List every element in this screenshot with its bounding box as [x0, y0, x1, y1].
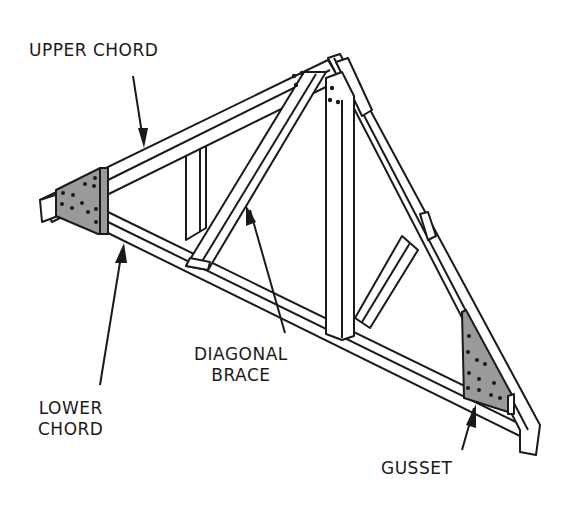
upper-chord-label: UPPER CHORD [29, 40, 158, 61]
truss-diagram: UPPER CHORD DIAGONAL BRACE LOWER CHORD G… [0, 0, 572, 507]
left-gusset [56, 168, 108, 234]
lower-chord-arrow [100, 243, 127, 385]
diagonal-brace-arrow [246, 205, 285, 333]
lower-chord-label-line1: LOWER [38, 398, 103, 419]
king-post [326, 72, 354, 340]
diagonal-brace-label: DIAGONAL BRACE [194, 344, 288, 386]
diagonal-brace-label-line1: DIAGONAL [194, 344, 288, 365]
upper-chord-arrow [133, 76, 148, 148]
gusset-label: GUSSET [381, 458, 452, 479]
lower-chord-label-line2: CHORD [38, 419, 103, 440]
right-web-brace [355, 236, 418, 328]
lower-chord-label: LOWER CHORD [38, 398, 103, 440]
diagonal-brace-label-line2: BRACE [194, 365, 288, 386]
